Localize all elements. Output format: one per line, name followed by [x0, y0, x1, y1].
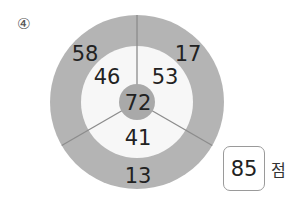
inner-value-top-left: 46: [94, 65, 121, 89]
outer-value-top-left: 58: [72, 42, 99, 66]
answer-value: 85: [231, 157, 258, 181]
target-diagram-stage: ④ 58 17 46 53 72 41 13 85 점: [0, 0, 301, 206]
outer-value-bottom: 13: [125, 164, 152, 188]
answer-unit: 점: [271, 157, 286, 181]
inner-value-bottom: 41: [125, 126, 152, 150]
answer-box: 85: [223, 146, 265, 191]
outer-value-top-right: 17: [175, 42, 202, 66]
center-value: 72: [125, 91, 152, 115]
inner-value-top-right: 53: [152, 65, 179, 89]
